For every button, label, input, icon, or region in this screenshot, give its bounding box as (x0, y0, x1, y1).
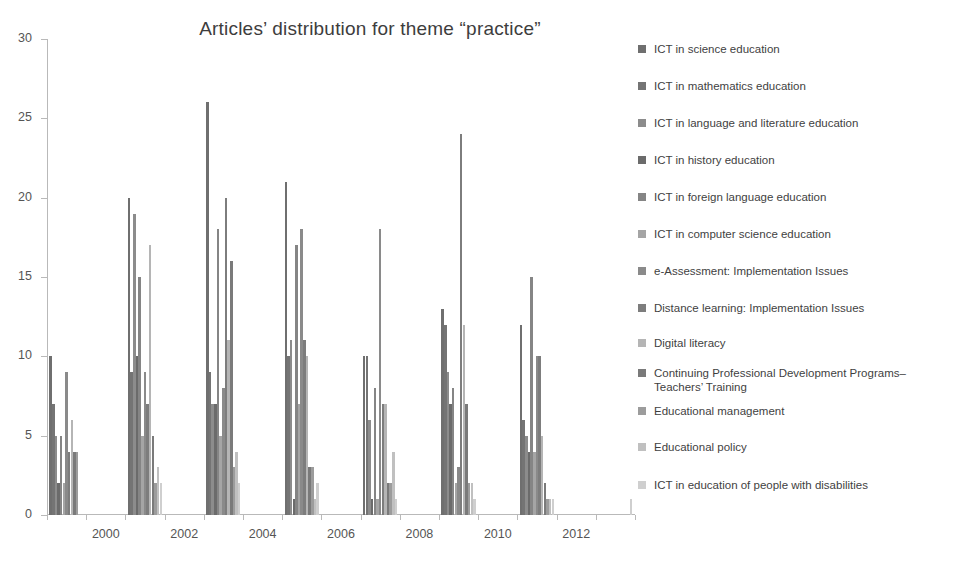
legend-swatch-icon (638, 267, 646, 275)
y-tick: 15 (41, 277, 47, 278)
y-tick-label: 20 (18, 190, 32, 204)
x-tick (47, 515, 48, 520)
legend-item-label: Educational management (654, 404, 784, 418)
y-tick-label: 25 (18, 110, 32, 124)
y-tick: 10 (41, 356, 47, 357)
legend-swatch-icon (638, 443, 646, 451)
x-tick-label: 2000 (92, 527, 120, 541)
legend-swatch-icon (638, 481, 646, 489)
plot-area: 051015202530 200020022004200620082010201… (47, 39, 635, 515)
y-tick-label: 15 (18, 269, 32, 283)
x-tick (321, 515, 322, 520)
legend-item-label: ICT in computer science education (654, 227, 831, 241)
bar (238, 483, 241, 515)
x-tick (243, 515, 244, 520)
x-tick (596, 515, 597, 520)
bar (473, 499, 476, 515)
legend-item[interactable]: e-Assessment: Implementation Issues (638, 264, 848, 278)
legend-swatch-icon (638, 45, 646, 53)
legend-item[interactable]: ICT in computer science education (638, 227, 831, 241)
legend-item[interactable]: ICT in foreign language education (638, 190, 826, 204)
legend-item[interactable]: ICT in language and literature education (638, 116, 858, 130)
x-tick-label: 2012 (562, 527, 590, 541)
x-tick-label: 2002 (170, 527, 198, 541)
legend-item-label: Continuing Professional Development Prog… (654, 366, 906, 394)
y-tick-label: 10 (18, 348, 32, 362)
bar (160, 483, 163, 515)
bar (316, 483, 319, 515)
legend-item[interactable]: ICT in history education (638, 153, 775, 167)
x-tick-label: 2010 (484, 527, 512, 541)
x-tick (204, 515, 205, 520)
x-tick-label: 2004 (249, 527, 277, 541)
legend-item-label: Educational policy (654, 440, 747, 454)
bar (630, 499, 633, 515)
x-tick (517, 515, 518, 520)
x-tick (439, 515, 440, 520)
x-tick (165, 515, 166, 520)
legend-item[interactable]: Educational policy (638, 440, 747, 454)
legend-swatch-icon (638, 339, 646, 347)
legend-item-label: ICT in language and literature education (654, 116, 858, 130)
x-tick (635, 515, 636, 520)
x-tick (125, 515, 126, 520)
y-tick: 5 (41, 436, 47, 437)
y-tick: 30 (41, 39, 47, 40)
chart-page: Articles’ distribution for theme “practi… (0, 0, 954, 564)
legend-swatch-icon (638, 304, 646, 312)
legend-swatch-icon (638, 82, 646, 90)
x-tick (557, 515, 558, 520)
x-tick (361, 515, 362, 520)
legend-item[interactable]: Continuing Professional Development Prog… (638, 366, 906, 394)
legend-item-label: ICT in foreign language education (654, 190, 826, 204)
x-tick (478, 515, 479, 520)
chart-title: Articles’ distribution for theme “practi… (120, 18, 620, 40)
legend-item[interactable]: ICT in mathematics education (638, 79, 806, 93)
legend-swatch-icon (638, 230, 646, 238)
bars-layer (47, 39, 635, 515)
y-tick-label: 5 (25, 428, 32, 442)
legend-item[interactable]: Distance learning: Implementation Issues (638, 301, 864, 315)
y-tick-label: 0 (25, 507, 32, 521)
y-tick-label: 30 (18, 31, 32, 45)
legend-swatch-icon (638, 193, 646, 201)
y-tick: 25 (41, 118, 47, 119)
bar (552, 499, 555, 515)
x-tick (400, 515, 401, 520)
legend-item[interactable]: ICT in education of people with disabili… (638, 478, 868, 492)
legend-item[interactable]: ICT in science education (638, 42, 780, 56)
legend-item-label: e-Assessment: Implementation Issues (654, 264, 848, 278)
legend-swatch-icon (638, 407, 646, 415)
x-tick-label: 2006 (327, 527, 355, 541)
legend-item-label: ICT in history education (654, 153, 775, 167)
legend-item-label: ICT in science education (654, 42, 780, 56)
y-tick: 20 (41, 198, 47, 199)
bar (395, 499, 398, 515)
x-tick (282, 515, 283, 520)
bar (76, 452, 79, 515)
legend-item-label: Digital literacy (654, 336, 726, 350)
legend-item[interactable]: Digital literacy (638, 336, 726, 350)
legend-item[interactable]: Educational management (638, 404, 784, 418)
legend-item-label: Distance learning: Implementation Issues (654, 301, 864, 315)
bar (290, 340, 293, 515)
x-tick-label: 2008 (405, 527, 433, 541)
legend-swatch-icon (638, 369, 646, 377)
legend-item-label: ICT in education of people with disabili… (654, 478, 868, 492)
x-tick (86, 515, 87, 520)
bar (374, 388, 377, 515)
legend-swatch-icon (638, 119, 646, 127)
legend-item-label: ICT in mathematics education (654, 79, 806, 93)
legend-swatch-icon (638, 156, 646, 164)
